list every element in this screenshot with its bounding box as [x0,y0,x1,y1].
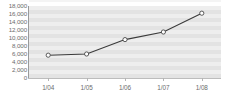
y-axis-tick-label: 2,000 [0,67,27,73]
x-axis-tick [87,78,88,81]
y-axis-tick-label: 16,000 [0,11,27,17]
data-point-marker [161,30,165,34]
x-axis-tick [163,78,164,81]
x-axis-tick [48,78,49,81]
y-axis-tick-label: 18,000 [0,3,27,9]
x-axis-tick [125,78,126,81]
series-line [48,13,202,55]
y-axis-line [28,6,29,79]
y-axis-tick-label: 10,000 [0,35,27,41]
data-point-marker [123,38,127,42]
y-axis-tick-labels: 02,0004,0006,0008,00010,00012,00014,0001… [0,0,27,105]
data-point-marker [46,53,50,57]
plot-area [29,6,221,78]
x-axis-tick-label: 1/06 [110,84,140,91]
x-axis-tick-label: 1/05 [72,84,102,91]
y-axis-tick-label: 12,000 [0,27,27,33]
x-axis-tick [202,78,203,81]
y-axis-tick-label: 0 [0,75,27,81]
y-axis-tick-label: 8,000 [0,43,27,49]
top-rule [29,0,221,2]
x-axis-tick-label: 1/08 [187,84,217,91]
series-line-group [29,6,221,78]
y-axis-tick-label: 6,000 [0,51,27,57]
y-axis-tick-label: 14,000 [0,19,27,25]
x-axis-tick-label: 1/04 [33,84,63,91]
data-point-marker [85,52,89,56]
line-chart: 02,0004,0006,0008,00010,00012,00014,0001… [0,0,229,105]
data-point-marker [200,11,204,15]
x-axis-tick-label: 1/07 [148,84,178,91]
x-axis-tick-labels: 1/041/051/061/071/08 [29,84,221,96]
series-markers [46,11,204,57]
y-axis-tick-label: 4,000 [0,59,27,65]
